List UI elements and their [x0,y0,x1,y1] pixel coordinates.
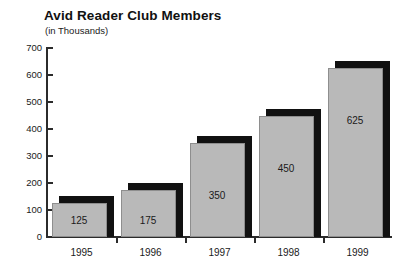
y-axis-tick-label: 600 [4,69,42,80]
chart-title: Avid Reader Club Members [44,8,221,23]
x-axis-tick [116,238,118,243]
x-axis-label-1995: 1995 [47,247,116,258]
x-axis-label-1998: 1998 [254,247,323,258]
y-axis-tick [48,182,53,184]
x-axis-tick [185,238,187,243]
x-axis-label-1999: 1999 [323,247,392,258]
x-axis-tick [254,238,256,243]
bar-value-label: 450 [259,163,314,174]
y-axis-tick-label: 700 [4,42,42,53]
bar-value-label: 350 [190,190,245,201]
y-axis-tick-label: 100 [4,204,42,215]
chart-subtitle: (in Thousands) [45,25,108,36]
bar-value-label: 175 [121,215,176,226]
y-axis-tick-label: 500 [4,96,42,107]
bar-1996[interactable] [121,190,176,237]
y-axis-tick-label: 400 [4,123,42,134]
bar-1998[interactable] [259,116,314,238]
x-axis-label-1997: 1997 [185,247,254,258]
y-axis-tick-label: 200 [4,177,42,188]
y-axis-tick [48,155,53,157]
bar-value-label: 125 [52,215,107,226]
y-axis-tick [48,74,53,76]
bar-1999[interactable] [328,68,383,237]
y-axis-tick-label: 300 [4,150,42,161]
y-axis-tick [48,47,53,49]
x-axis-tick [323,238,325,243]
bar-chart: Avid Reader Club Members (in Thousands) … [0,0,400,270]
y-axis-tick [48,128,53,130]
bar-value-label: 625 [328,115,383,126]
y-axis-tick [48,101,53,103]
x-axis-label-1996: 1996 [116,247,185,258]
y-axis-tick-label: 0 [4,231,42,242]
